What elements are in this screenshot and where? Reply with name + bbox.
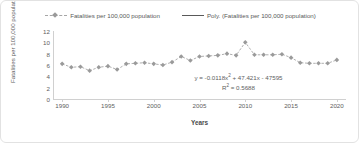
data-point-marker	[298, 60, 303, 65]
data-point-marker	[87, 68, 92, 73]
trendline-equation-annotation: y = -0.0118x2 + 47.421x - 47595 R2 = 0.5…	[151, 72, 326, 93]
x-tick-label: 2000	[147, 102, 161, 109]
data-point-marker	[115, 67, 120, 72]
x-tick-label: 2010	[238, 102, 252, 109]
equation-line: y = -0.0118x2 + 47.421x - 47595	[151, 72, 326, 82]
data-point-marker	[179, 54, 184, 59]
y-tick-label: 2	[47, 84, 50, 91]
y-tick-label: 8	[47, 50, 50, 57]
x-axis-title: Years	[53, 119, 346, 126]
x-tick-label: 1990	[55, 102, 69, 109]
y-tick-label: 0	[47, 96, 50, 103]
x-tick-label: 1995	[101, 102, 115, 109]
data-point-marker	[335, 58, 340, 63]
data-point-marker	[78, 64, 83, 69]
data-point-marker	[69, 65, 74, 70]
legend-entry-trendline: Poly. (Fatalities per 100,000 population…	[182, 12, 316, 19]
x-tick-label: 2015	[284, 102, 298, 109]
data-point-marker	[96, 65, 101, 70]
data-point-marker	[197, 54, 202, 59]
data-point-marker	[142, 60, 147, 65]
data-point-marker	[252, 53, 257, 58]
legend-entry-fatalities: Fatalities per 100,000 population	[45, 12, 160, 19]
data-point-marker	[261, 53, 266, 58]
data-point-marker	[188, 58, 193, 63]
data-point-marker	[106, 64, 111, 69]
y-tick-label: 12	[43, 28, 50, 35]
data-point-marker	[243, 40, 248, 45]
x-tick-mark	[200, 99, 201, 102]
data-point-marker	[225, 51, 230, 56]
x-tick-label: 2020	[330, 102, 344, 109]
x-tick-label: 2005	[193, 102, 207, 109]
y-tick-label: 6	[47, 62, 50, 69]
x-tick-mark	[245, 99, 246, 102]
x-tick-mark	[291, 99, 292, 102]
x-tick-mark	[154, 99, 155, 102]
data-point-marker	[151, 62, 156, 67]
legend-marker-diamond-dashed-icon	[45, 12, 67, 19]
data-point-marker	[280, 52, 285, 57]
x-tick-mark	[62, 99, 63, 102]
data-point-marker	[289, 55, 294, 60]
data-point-marker	[170, 60, 175, 65]
chart-legend: Fatalities per 100,000 population Poly. …	[1, 7, 359, 23]
chart-figure: Fatalities per 100,000 population Poly. …	[0, 0, 359, 143]
data-point-marker	[325, 61, 330, 66]
y-tick-label: 10	[43, 39, 50, 46]
data-point-marker	[133, 61, 138, 66]
data-point-marker	[60, 62, 65, 67]
legend-label-trendline: Poly. (Fatalities per 100,000 population…	[207, 12, 316, 19]
data-point-marker	[161, 63, 166, 68]
data-point-marker	[206, 54, 211, 59]
data-point-marker	[316, 61, 321, 66]
r-squared-line: R2 = 0.5688	[151, 82, 326, 92]
x-tick-mark	[337, 99, 338, 102]
data-point-marker	[124, 62, 129, 67]
legend-label-fatalities: Fatalities per 100,000 population	[70, 12, 160, 19]
y-tick-label: 4	[47, 73, 50, 80]
y-axis-title: Fatalities per 100,000 population	[9, 0, 29, 83]
data-markers	[60, 40, 339, 73]
x-tick-mark	[108, 99, 109, 102]
data-point-marker	[307, 61, 312, 66]
data-point-marker	[216, 53, 221, 58]
data-point-marker	[270, 53, 275, 58]
legend-line-solid-icon	[182, 12, 204, 19]
